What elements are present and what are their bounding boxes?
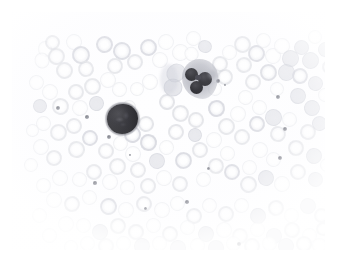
blood-smear-figure xyxy=(0,0,339,267)
lymphocyte-cell xyxy=(105,102,140,136)
platelet xyxy=(129,154,132,157)
platelet xyxy=(56,106,61,111)
debris-smudge-1 xyxy=(208,70,218,79)
neutrophil-nuclear-bridge xyxy=(195,75,201,80)
platelet xyxy=(237,242,241,246)
platelet xyxy=(85,115,89,119)
debris-smudge-2 xyxy=(160,64,178,94)
platelet xyxy=(144,207,147,210)
micrograph-field xyxy=(12,12,325,250)
neutrophil-nuclear-lobe-3 xyxy=(190,81,203,94)
leukocyte-platelet-layer xyxy=(12,12,325,250)
platelet xyxy=(93,181,96,184)
platelet xyxy=(283,127,287,131)
platelet xyxy=(278,156,282,160)
platelet xyxy=(224,84,227,87)
platelet xyxy=(185,200,188,203)
platelet xyxy=(207,167,210,170)
platelet xyxy=(276,95,280,99)
segmented-neutrophil-cell xyxy=(182,59,218,99)
lymphocyte-chromatin xyxy=(108,105,137,133)
